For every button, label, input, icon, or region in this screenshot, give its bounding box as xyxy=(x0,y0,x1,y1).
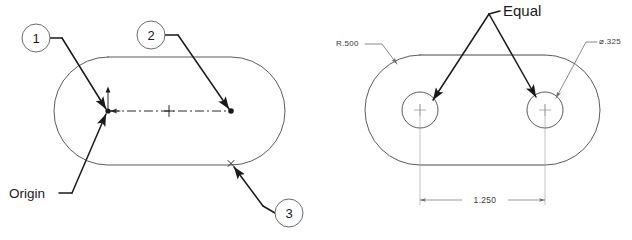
leader-origin-label xyxy=(59,114,106,193)
balloon-3-number: 3 xyxy=(285,206,292,221)
diameter-label: ⌀.325 xyxy=(599,37,621,46)
callout-equal: Equal xyxy=(433,2,541,100)
bottom-edge-point xyxy=(228,161,234,167)
leader-balloon-1 xyxy=(50,38,106,109)
sketch-origin-axes xyxy=(106,86,120,111)
balloon-2-number: 2 xyxy=(147,28,154,43)
drawing-canvas: 1 2 3 Origin xyxy=(0,0,632,240)
balloon-3[interactable]: 3 xyxy=(275,199,303,227)
callout-diameter: ⌀.325 xyxy=(556,37,621,98)
left-slot-view: 1 2 3 Origin xyxy=(9,21,303,227)
balloon-2[interactable]: 2 xyxy=(137,21,165,49)
centerline-midpoint-marker xyxy=(165,106,174,117)
callout-radius: R.500 xyxy=(336,39,397,64)
balloon-1-number: 1 xyxy=(32,31,39,46)
engineering-drawing-sheet: 1 2 3 Origin xyxy=(0,0,632,240)
equal-label: Equal xyxy=(503,2,541,19)
balloon-1[interactable]: 1 xyxy=(22,24,50,52)
radius-label: R.500 xyxy=(336,39,359,48)
dimension-1250-text: 1.250 xyxy=(474,195,497,205)
origin-label: Origin xyxy=(9,186,45,201)
leader-balloon-2 xyxy=(165,35,229,109)
right-slot-view: 1.250 R.500 ⌀.325 Equal xyxy=(336,2,621,205)
dimension-1250: 1.250 xyxy=(420,195,545,205)
leader-balloon-3 xyxy=(234,167,275,213)
slot-outline-dimensioned xyxy=(365,55,600,165)
